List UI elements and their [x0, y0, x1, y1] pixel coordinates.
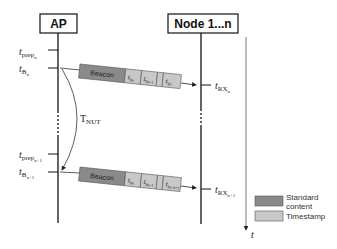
t-nut-interval: TNUT [62, 69, 101, 170]
svg-text:Standard: Standard [286, 193, 318, 202]
svg-text:tRXn+1: tRXn+1 [215, 184, 236, 198]
svg-text:tRXn: tRXn [215, 80, 231, 94]
svg-text:tprepn: tprepn [19, 46, 37, 60]
label-t-rx-n: tRXn [215, 80, 231, 94]
legend: Standard content Timestamp [255, 193, 326, 221]
legend-timestamp: Timestamp [255, 211, 326, 221]
ap-label: AP [50, 17, 67, 31]
svg-text:Timestamp: Timestamp [286, 212, 326, 221]
ap-ticks [48, 50, 58, 172]
node-entity: Node 1...n [168, 14, 238, 33]
label-t-prep-n: tprepn [19, 46, 37, 60]
beacon-packet-1: Beacon tBn tBn-1 tB1 [60, 64, 196, 89]
svg-text:tBn: tBn [19, 63, 29, 77]
label-t-rx-n1: tRXn+1 [215, 184, 236, 198]
svg-text:content: content [286, 202, 313, 211]
svg-text:tBn+1: tBn+1 [19, 166, 35, 180]
node-label: Node 1...n [174, 17, 231, 31]
t-nut-label: TNUT [80, 113, 101, 126]
sequence-diagram: AP Node 1...n t tprepn tBn tprepn+1 tBn+ [0, 0, 337, 249]
node-ticks [201, 85, 211, 189]
label-t-b-n: tBn [19, 63, 29, 77]
label-t-prep-n1: tprepn+1 [19, 149, 43, 163]
legend-swatch [255, 196, 283, 206]
legend-swatch [255, 211, 283, 221]
time-axis: t [246, 37, 254, 240]
ap-entity: AP [40, 14, 77, 33]
time-axis-label: t [251, 229, 254, 240]
beacon-packet-2: Beacon tBn tBn-1 tBn-k+1 [60, 167, 196, 192]
svg-text:tprepn+1: tprepn+1 [19, 149, 43, 163]
legend-standard-content: Standard content [255, 193, 318, 211]
label-t-b-n1: tBn+1 [19, 166, 35, 180]
